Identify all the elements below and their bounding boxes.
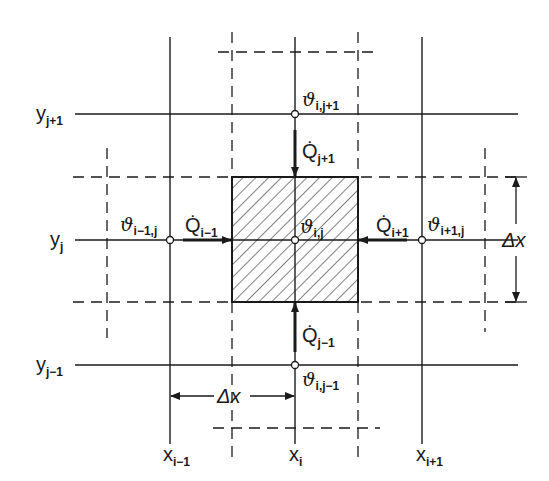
- node-center: [292, 237, 299, 244]
- label-q-i-minus-1: Q̇i−1: [185, 214, 218, 240]
- label-delta-x-horizontal: Δx: [216, 385, 241, 407]
- label-y-j: yj: [50, 228, 63, 254]
- node-top: [292, 111, 299, 118]
- label-theta-i-j-plus-1: ϑi,j+1: [302, 88, 340, 113]
- label-delta-x-vertical: Δx: [501, 229, 526, 251]
- label-theta-i-plus-1-j: ϑi+1,j: [427, 213, 464, 238]
- label-q-j-minus-1: Q̇j−1: [302, 324, 335, 350]
- node-right: [419, 237, 426, 244]
- node-bottom: [292, 362, 299, 369]
- node-left: [167, 237, 174, 244]
- label-theta-i-minus-1-j: ϑi−1,j: [120, 213, 157, 238]
- label-x-i: xi: [289, 443, 302, 469]
- label-y-j-minus-1: yj−1: [36, 353, 63, 379]
- label-x-i-minus-1: xi−1: [163, 443, 190, 469]
- label-q-j-plus-1: Q̇j+1: [302, 140, 335, 166]
- label-y-j-plus-1: yj+1: [36, 102, 63, 128]
- label-theta-i-j-minus-1: ϑi,j−1: [302, 368, 340, 393]
- label-q-i-plus-1: Q̇i+1: [376, 214, 409, 240]
- label-x-i-plus-1: xi+1: [416, 443, 443, 469]
- finite-difference-grid-diagram: yj+1 yj yj−1 xi−1 xi xi+1 ϑi,j+1 ϑi,j ϑi…: [0, 0, 549, 481]
